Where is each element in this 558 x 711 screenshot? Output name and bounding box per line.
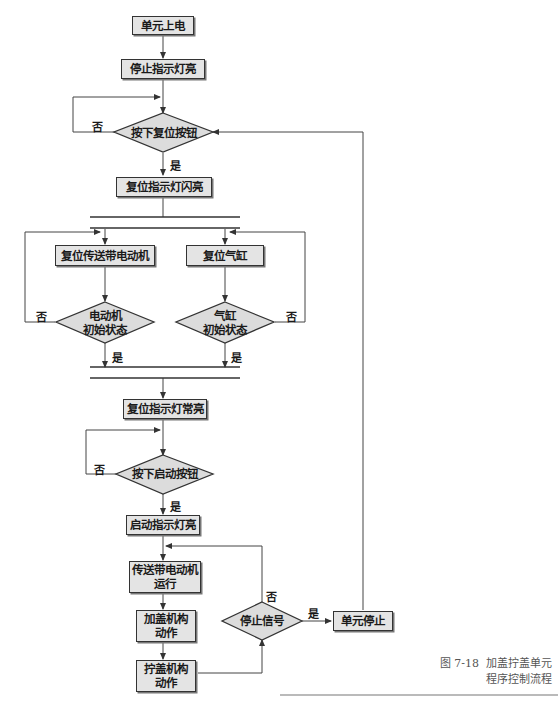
tag-no-stop: 否 [266, 588, 277, 604]
node-conveyor-run-line1: 传送带电动机 [132, 563, 198, 577]
caption-line1: 图 7-18 加盖拧盖单元 [410, 656, 552, 672]
label-cylinder-initial-line1: 气缸 [214, 309, 236, 323]
node-conveyor-run-line2: 运行 [154, 577, 176, 591]
tag-yes-reset: 是 [170, 157, 181, 173]
tag-yes-start: 是 [170, 498, 181, 514]
label-press-reset: 按下复位按钮 [114, 124, 213, 142]
label-motor-initial-line1: 电动机 [89, 309, 122, 323]
node-conveyor-run: 传送带电动机 运行 [129, 561, 201, 593]
node-power-on: 单元上电 [132, 16, 194, 35]
node-capping-line2: 动作 [155, 626, 177, 640]
label-cylinder-initial-line2: 初始状态 [203, 323, 247, 337]
node-unit-stop: 单元停止 [333, 611, 393, 631]
caption-line2: 程序控制流程 [410, 672, 552, 688]
tag-yes-cylinder: 是 [231, 349, 242, 365]
caption-number: 图 7-18 [440, 657, 479, 670]
node-screwing-action: 拧盖机构 动作 [136, 660, 196, 692]
tag-no-cylinder: 否 [286, 308, 297, 324]
tag-no-motor: 否 [36, 308, 47, 324]
node-reset-light-steady: 复位指示灯常亮 [123, 399, 207, 419]
label-motor-initial-line2: 初始状态 [83, 323, 127, 337]
flowchart-connectors [0, 0, 558, 711]
label-press-start: 按下启动按钮 [116, 465, 213, 483]
tag-yes-motor: 是 [112, 349, 123, 365]
tag-no-start: 否 [94, 461, 105, 477]
node-start-light-on: 启动指示灯亮 [126, 515, 200, 535]
label-motor-initial: 电动机 初始状态 [60, 308, 150, 338]
node-screwing-line1: 拧盖机构 [144, 662, 188, 676]
label-cylinder-initial: 气缸 初始状态 [180, 308, 270, 338]
node-reset-motor: 复位传送带电动机 [55, 245, 155, 266]
label-stop-signal: 停止信号 [222, 612, 302, 630]
node-screwing-line2: 动作 [155, 676, 177, 690]
node-stop-light-on: 停止指示灯亮 [121, 59, 205, 79]
cropped-header [0, 0, 140, 4]
tag-no-reset: 否 [92, 118, 103, 134]
node-reset-cylinder: 复位气缸 [186, 245, 264, 266]
node-capping-action: 加盖机构 动作 [136, 610, 196, 642]
node-reset-light-blink: 复位指示灯闪亮 [116, 177, 212, 197]
figure-caption: 图 7-18 加盖拧盖单元 程序控制流程 [410, 656, 552, 688]
tag-yes-stop: 是 [308, 605, 319, 621]
node-capping-line1: 加盖机构 [144, 612, 188, 626]
caption-title-1: 加盖拧盖单元 [486, 657, 552, 670]
